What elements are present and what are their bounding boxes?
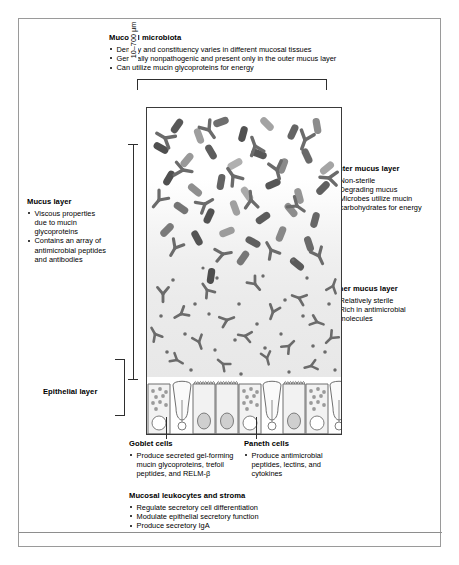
list-item: Rich in antimicrobial molecules — [332, 305, 424, 324]
goblet-cells-heading: Goblet cells — [129, 439, 234, 449]
outer-mucus-layer-heading: Outer mucus layer — [332, 164, 424, 174]
goblet-cells-list: Produce secreted gel-forming mucin glyco… — [129, 451, 234, 479]
text-block-mucosal-leukocytes: Mucosal leukocytes and stroma Regulate s… — [129, 491, 359, 530]
bottom-divider — [19, 532, 442, 533]
mucus-layer-heading: Mucus layer — [27, 197, 107, 207]
list-item: Relatively sterile — [332, 296, 424, 305]
list-item: Produce secreted gel-forming mucin glyco… — [129, 451, 234, 479]
list-item: Microbes utilize mucin carbohydrates for… — [332, 194, 424, 213]
mucus-layer-list: Viscous properties due to mucin glycopro… — [27, 209, 107, 265]
scale-bar — [126, 144, 140, 380]
mucosal-leukocytes-list: Regulate secretory cell differentiation … — [129, 503, 359, 531]
bacteria-group — [152, 116, 335, 285]
text-block-goblet-cells: Goblet cells Produce secreted gel-formin… — [129, 439, 234, 478]
list-item: Produce secretory IgA — [129, 521, 359, 530]
list-item: Can utilize mucin glycoproteins for ener… — [109, 63, 409, 72]
epithelial-cell-row — [147, 378, 342, 435]
epithelium-cells — [148, 381, 342, 434]
text-block-outer-mucus-layer: Outer mucus layer Non-sterile Degrading … — [332, 164, 424, 213]
mucosal-microbiota-list: Density and constituency varies in diffe… — [109, 45, 409, 73]
text-block-paneth-cells: Paneth cells Produce antimicrobial pepti… — [244, 439, 349, 478]
list-item: Degrading mucus — [332, 185, 424, 194]
list-item: Modulate epithelial secretory function — [129, 512, 359, 521]
outer-mucus-layer-list: Non-sterile Degrading mucus Microbes uti… — [332, 176, 424, 213]
leader-line-paneth — [256, 417, 257, 439]
text-block-inner-mucus-layer: Inner mucus layer Relatively sterile Ric… — [332, 284, 424, 323]
list-item: Viscous properties due to mucin glycopro… — [27, 209, 107, 237]
list-item: Regulate secretory cell differentiation — [129, 503, 359, 512]
bracket-microbiota — [137, 79, 327, 90]
leader-line-goblet — [166, 417, 167, 439]
paneth-cells-list: Produce antimicrobial peptides, lectins,… — [244, 451, 349, 479]
mucosal-microbiota-heading: Mucosal microbiota — [109, 33, 409, 43]
bracket-epithelial-layer — [115, 359, 125, 416]
text-block-mucosal-microbiota: Mucosal microbiota Density and constitue… — [109, 33, 409, 72]
list-item: Contains an array of antimicrobial pepti… — [27, 236, 107, 264]
paneth-cells-heading: Paneth cells — [244, 439, 349, 449]
mucosal-leukocytes-heading: Mucosal leukocytes and stroma — [129, 491, 359, 501]
list-item: Density and constituency varies in diffe… — [109, 45, 409, 54]
list-item: Non-sterile — [332, 176, 424, 185]
text-block-mucus-layer: Mucus layer Viscous properties due to mu… — [27, 197, 107, 264]
list-item: Generally nonpathogenic and present only… — [109, 54, 409, 63]
mucosal-barrier-diagram — [146, 107, 342, 435]
inner-mucus-layer-heading: Inner mucus layer — [332, 284, 424, 294]
list-item: Produce antimicrobial peptides, lectins,… — [244, 451, 349, 479]
figure-frame: Mucosal microbiota Density and constitue… — [18, 18, 441, 547]
inner-mucus-layer-list: Relatively sterile Rich in antimicrobial… — [332, 296, 424, 324]
